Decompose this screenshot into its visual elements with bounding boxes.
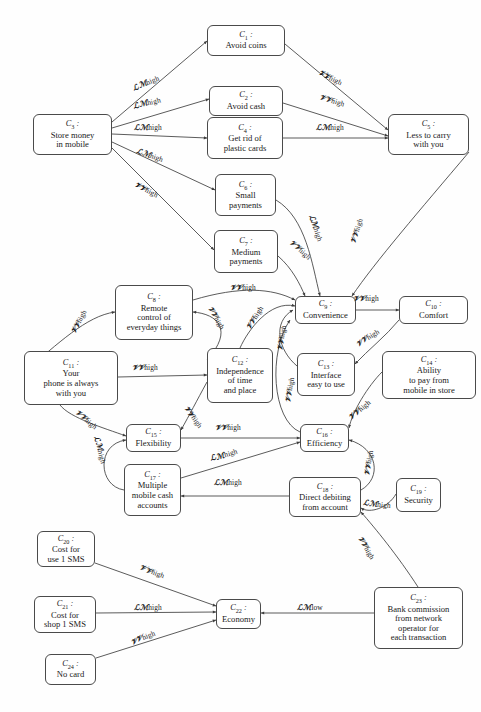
edge-weight-label: 𝒱𝒱high: [215, 423, 241, 433]
edge-weight-label: 𝒱𝒱high: [129, 629, 157, 648]
node-c16[interactable]: C16 :Efficiency: [300, 424, 349, 452]
edge-weight-label: 𝒱𝒱high: [205, 304, 227, 331]
edge-weight-label: ℒℳhigh: [132, 95, 161, 110]
node-c8[interactable]: C8 :Remote control of everyday things: [115, 285, 193, 340]
node-c11[interactable]: C11 :Your phone is always with you: [24, 351, 118, 405]
node-label: Economy: [222, 615, 255, 625]
edge-line: [96, 612, 216, 613]
node-c20[interactable]: C20 :Cost for use 1 SMS: [37, 531, 95, 567]
edge-weight-label: 𝒱𝒱high: [138, 563, 166, 581]
edge-weight-label: 𝒱𝒱high: [287, 238, 313, 263]
node-c22[interactable]: C22 :Economy: [216, 599, 261, 629]
edge-weight-label: 𝒱𝒱high: [362, 449, 376, 476]
node-label: Comfort: [419, 311, 448, 321]
node-label: Efficiency: [307, 439, 343, 449]
edge-line: [181, 442, 300, 478]
node-c3[interactable]: C3 :Store money in mobile: [33, 114, 112, 155]
node-c18[interactable]: C18 :Direct debiting from account: [289, 477, 361, 517]
node-label: Flexibility: [136, 439, 172, 449]
node-id: C21 :: [57, 599, 74, 611]
node-c9[interactable]: C9 :Convenience: [295, 296, 356, 324]
node-label: Remote control of everyday things: [127, 304, 182, 333]
node-c2[interactable]: C2 :Avoid cash: [209, 86, 283, 116]
edge-line: [112, 134, 207, 138]
node-c10[interactable]: C10 :Comfort: [399, 296, 468, 324]
node-c1[interactable]: C1 :Avoid coins: [207, 25, 285, 56]
edge-weight-label: 𝒱𝒱high: [283, 376, 297, 403]
node-c5[interactable]: C5 :Less to carry with you: [388, 114, 469, 155]
node-label: No card: [57, 670, 84, 680]
node-c24[interactable]: C24 :No card: [45, 654, 96, 685]
edge-weight-label: ℒℳhigh: [92, 435, 108, 464]
node-label: Convenience: [303, 311, 348, 321]
node-c14[interactable]: C14 :Ability to pay from mobile in store: [382, 351, 476, 399]
node-label: Independence of time and place: [216, 367, 264, 396]
node-c15[interactable]: C15 :Flexibility: [126, 424, 181, 452]
diagram-canvas: C1 :Avoid coinsC2 :Avoid cashC3 :Store m…: [0, 0, 481, 712]
node-id: C23 :: [410, 593, 427, 605]
edge-line: [112, 142, 215, 190]
node-c12[interactable]: C12 :Independence of time and place: [207, 348, 273, 403]
node-c13[interactable]: C13 :Interface easy to use: [297, 353, 355, 396]
node-label: Less to carry with you: [406, 131, 450, 150]
edge-weight-label: ℒℳhigh: [316, 123, 344, 132]
node-id: C13 :: [318, 359, 335, 371]
edge-weight-label: 𝒱𝒱high: [316, 68, 344, 88]
edge-weight-label: 𝒱𝒱high: [354, 327, 381, 349]
edge-weight-label: 𝒱𝒱high: [353, 294, 379, 304]
edge-weight-label: ℒℳhigh: [134, 123, 162, 132]
node-label: Interface easy to use: [307, 371, 345, 390]
node-label: Ability to pay from mobile in store: [403, 366, 455, 395]
node-label: Your phone is always with you: [44, 369, 99, 398]
edge-weight-label: 𝒱𝒱high: [69, 308, 90, 335]
edge-weight-label: ℒℳhigh: [214, 478, 242, 487]
node-id: C7 :: [239, 236, 253, 248]
node-label: Security: [404, 496, 433, 506]
edge-weight-label: 𝒱𝒱high: [318, 92, 346, 109]
node-c7[interactable]: C7 :Medium payments: [214, 230, 278, 273]
edge-weight-label: ℒℳhigh: [134, 603, 162, 612]
edge-line: [278, 256, 305, 296]
node-label: Store money in mobile: [51, 131, 95, 150]
node-c17[interactable]: C17 :Multiple mobile cash accounts: [124, 464, 181, 516]
node-c19[interactable]: C19 :Security: [396, 478, 441, 512]
node-label: Small payments: [229, 191, 262, 210]
node-c4[interactable]: C4 :Get rid of plastic cards: [207, 117, 283, 159]
edge-weight-label: 𝒱𝒱high: [244, 304, 266, 331]
edge-weight-label: 𝒱𝒱high: [348, 217, 365, 245]
edge-weight-label: ℒℳhigh: [131, 74, 160, 93]
node-label: Avoid coins: [225, 41, 266, 51]
edge-line: [112, 148, 214, 250]
edge-line: [96, 620, 216, 658]
node-label: Cost for use 1 SMS: [47, 545, 84, 564]
edge-weight-label: ℒℳhigh: [307, 213, 324, 242]
node-label: Avoid cash: [227, 102, 265, 112]
edge-weight-label: 𝒱𝒱high: [275, 324, 289, 351]
edge-weight-label: ℒℳhigh: [363, 498, 392, 510]
edge-weight-label: 𝒱𝒱high: [182, 404, 205, 431]
node-label: Get rid of plastic cards: [224, 134, 267, 153]
edge-weight-label: ℒℳlow: [297, 603, 323, 612]
edge-line: [104, 440, 126, 490]
node-c6[interactable]: C6 :Small payments: [215, 174, 276, 216]
edge-line: [352, 152, 469, 296]
edge-weight-label: 𝒱𝒱high: [230, 283, 256, 293]
edge-weight-label: 𝒱𝒱high: [355, 534, 377, 561]
edge-line: [118, 375, 207, 377]
node-id: C3 :: [66, 119, 80, 131]
edge-weight-label: 𝒱𝒱high: [132, 363, 158, 373]
node-label: Medium payments: [230, 248, 263, 267]
node-id: C5 :: [422, 119, 436, 131]
node-label: Cost for shop 1 SMS: [44, 611, 86, 630]
node-c21[interactable]: C21 :Cost for shop 1 SMS: [34, 596, 96, 633]
edge-weight-label: 𝒱𝒱high: [73, 408, 99, 432]
edge-weight-label: 𝒱𝒱high: [347, 398, 373, 422]
edge-weight-label: ℒℳhigh: [135, 146, 164, 164]
node-label: Direct debiting from account: [299, 493, 351, 512]
edge-weight-label: 𝒱𝒱high: [132, 180, 159, 201]
node-label: Multiple mobile cash accounts: [132, 481, 173, 510]
edge-weight-label: ℒℳhigh: [209, 447, 238, 464]
node-label: Bank commission from network operator fo…: [388, 605, 450, 644]
node-c23[interactable]: C23 :Bank commission from network operat…: [374, 587, 463, 649]
